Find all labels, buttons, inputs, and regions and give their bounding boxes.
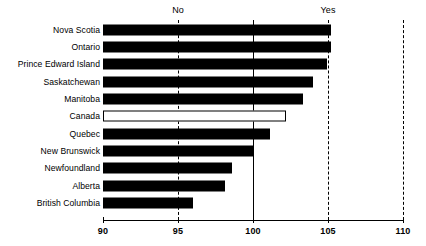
x-axis-tick-label: 90 [98,226,108,236]
bar [103,128,270,139]
bar [103,94,303,105]
plot-area: No Yes Nova Scotia Ontario Prince Edward… [0,0,426,246]
x-axis-tick [103,217,104,223]
bar-row: Manitoba [0,90,426,107]
category-label: Manitoba [64,94,100,104]
bar [103,42,331,53]
category-label: New Brunswick [41,146,100,156]
x-axis-tick [328,217,329,223]
category-label: British Columbia [37,198,100,208]
bar [103,111,286,122]
x-axis-tick [403,217,404,223]
bar-row: Prince Edward Island [0,56,426,73]
category-label: Ontario [71,42,100,52]
category-label: Nova Scotia [53,25,100,35]
bar [103,59,327,70]
bar [103,180,225,191]
bar-row: Saskatchewan [0,73,426,90]
bar-row: Canada [0,108,426,125]
category-label: Saskatchewan [44,77,101,87]
bar-row: Alberta [0,177,426,194]
bar-row: Newfoundland [0,160,426,177]
category-label: Newfoundland [44,163,100,173]
bar [103,24,331,35]
bar-row: New Brunswick [0,142,426,159]
horizontal-bar-chart: No Yes Nova Scotia Ontario Prince Edward… [0,0,426,246]
annotation-no: No [172,5,184,15]
category-label: Prince Edward Island [18,59,100,69]
bar-row: Quebec [0,125,426,142]
x-axis-tick-label: 105 [320,226,336,236]
category-label: Alberta [72,181,100,191]
category-label: Quebec [70,129,100,139]
bar-row: Nova Scotia [0,21,426,38]
bar-row: Ontario [0,38,426,55]
x-axis-tick [178,217,179,223]
bar [103,76,313,87]
x-axis-tick [253,217,254,223]
bar-row: British Columbia [0,195,426,212]
x-axis-tick-label: 95 [173,226,183,236]
category-label: Canada [70,111,100,121]
bar [103,198,193,209]
x-axis-tick-label: 100 [245,226,261,236]
annotation-yes: Yes [321,5,336,15]
bar [103,163,232,174]
bar [103,146,253,157]
x-axis-tick-label: 110 [395,226,410,236]
